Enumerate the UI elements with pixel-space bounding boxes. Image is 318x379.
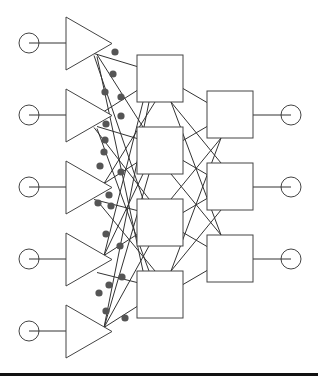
- weight-dot-icon: [105, 191, 112, 198]
- weight-dot-icon: [102, 307, 109, 314]
- weight-dot-icon: [117, 93, 124, 100]
- weight-dot-icon: [101, 136, 108, 143]
- weight-dot-icon: [107, 202, 114, 209]
- weight-dot-icon: [116, 242, 123, 249]
- weight-connection: [183, 161, 207, 175]
- weight-dot-icon: [117, 168, 124, 175]
- weight-dot-icon: [109, 70, 116, 77]
- amplifier-triangle-icon: [66, 89, 112, 142]
- output-node: [207, 235, 253, 282]
- amplifier-triangle-icon: [66, 17, 112, 70]
- weight-dot-icon: [102, 230, 109, 237]
- weight-dot-icon: [95, 289, 102, 296]
- weight-dot-icon: [105, 281, 112, 288]
- hidden-node: [137, 271, 183, 318]
- bottom-rule: [0, 373, 318, 376]
- weight-connection: [183, 199, 207, 213]
- weight-dot-icon: [94, 199, 101, 206]
- weight-dot-icon: [121, 314, 128, 321]
- weight-dot-icon: [96, 162, 103, 169]
- weight-dot-icon: [111, 48, 118, 55]
- weight-connection: [183, 233, 207, 247]
- network-canvas: [0, 0, 318, 379]
- output-node: [207, 91, 253, 138]
- weight-connection: [97, 273, 137, 283]
- amplifier-triangle-icon: [66, 161, 112, 214]
- weight-connection: [183, 89, 207, 103]
- hidden-node: [137, 199, 183, 246]
- weight-connection: [97, 127, 137, 139]
- weight-dot-icon: [118, 273, 125, 280]
- weight-connection: [183, 127, 207, 141]
- weight-dot-icon: [117, 112, 124, 119]
- hidden-node: [137, 55, 183, 102]
- weight-dot-icon: [100, 148, 107, 155]
- hidden-node: [137, 127, 183, 174]
- weight-connection: [183, 271, 207, 285]
- neural-network-diagram: [0, 0, 318, 379]
- output-node: [207, 163, 253, 210]
- weight-dot-icon: [102, 120, 109, 127]
- amplifier-triangle-icon: [66, 233, 112, 286]
- weight-dot-icon: [101, 88, 108, 95]
